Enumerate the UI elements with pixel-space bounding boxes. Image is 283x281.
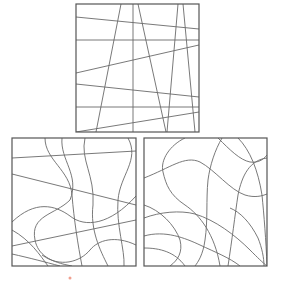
line-path	[144, 234, 240, 266]
line-path	[12, 151, 136, 158]
line-path	[12, 230, 48, 266]
line-path	[138, 4, 166, 132]
line-path	[76, 84, 199, 97]
line-path	[12, 220, 136, 246]
bottom-left-square-panel	[12, 138, 136, 266]
line-path	[34, 138, 72, 266]
line-path	[195, 138, 222, 266]
line-path	[218, 138, 267, 162]
diagram-canvas	[0, 0, 283, 281]
line-path	[183, 4, 195, 132]
line-path	[12, 254, 60, 266]
line-path	[84, 138, 108, 266]
top-lines	[76, 4, 199, 132]
bottom-right-square-panel	[144, 138, 267, 266]
bottom-left-lines	[12, 138, 136, 266]
line-path	[167, 4, 178, 132]
line-path	[162, 138, 220, 266]
line-path	[45, 138, 82, 266]
line-path	[238, 138, 267, 266]
line-path	[12, 174, 136, 205]
bottom-right-frame	[144, 138, 267, 266]
top-square-panel	[76, 4, 199, 132]
line-path	[76, 45, 199, 73]
red-mark	[69, 277, 72, 280]
line-path	[144, 248, 185, 266]
line-path	[76, 112, 199, 132]
line-path	[228, 158, 267, 266]
bottom-right-lines	[144, 138, 267, 266]
line-path	[76, 17, 199, 29]
red-dot-mark	[69, 277, 72, 280]
